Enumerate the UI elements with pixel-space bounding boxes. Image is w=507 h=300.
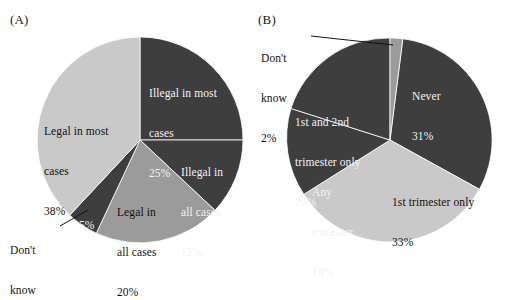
pie-b-label-first-trimester-only: 1st trimester only 33% xyxy=(392,170,474,276)
pie-b-label-first-and-second-trimester: 1st and 2nd trimester only 20% xyxy=(295,90,361,235)
pie-b-label-dont-know: Don't know 2% xyxy=(261,26,287,171)
pie-b-label-never: Never 31% xyxy=(412,64,441,170)
